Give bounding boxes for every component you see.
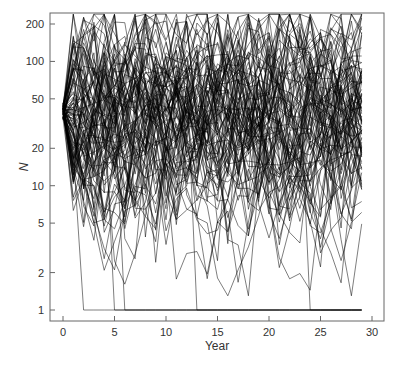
chart: 125102050100200 051015202530 Year N — [0, 0, 402, 369]
x-axis: 051015202530 — [60, 316, 378, 338]
x-tick-label: 15 — [211, 326, 223, 338]
y-tick-label: 20 — [32, 142, 44, 154]
y-tick-label: 10 — [32, 180, 44, 192]
y-tick-label: 100 — [26, 55, 44, 67]
x-tick-label: 5 — [111, 326, 117, 338]
trajectories — [63, 14, 362, 310]
x-tick-label: 30 — [366, 326, 378, 338]
x-tick-label: 25 — [314, 326, 326, 338]
y-tick-label: 2 — [38, 267, 44, 279]
x-tick-label: 0 — [60, 326, 66, 338]
x-tick-label: 20 — [263, 326, 275, 338]
y-tick-label: 5 — [38, 217, 44, 229]
y-tick-label: 1 — [38, 304, 44, 316]
x-axis-title: Year — [205, 339, 229, 353]
x-tick-label: 10 — [160, 326, 172, 338]
y-axis-title: N — [17, 162, 31, 171]
y-tick-label: 50 — [32, 93, 44, 105]
y-tick-label: 200 — [26, 18, 44, 30]
